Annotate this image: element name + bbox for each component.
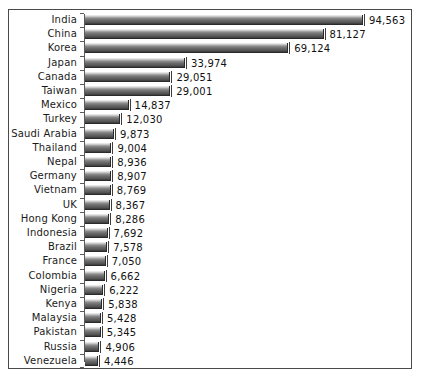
bar[interactable] (85, 43, 288, 53)
bar[interactable] (85, 58, 185, 68)
bar-row[interactable]: Kenya5,838 (9, 297, 411, 311)
bar[interactable] (85, 29, 324, 39)
bar-track: 81,127 (85, 29, 411, 39)
bar-end-cap (111, 199, 112, 211)
axis-tick (80, 169, 84, 170)
bar-row[interactable]: Mexico14,837 (9, 98, 411, 112)
category-label: Hong Kong (9, 212, 77, 226)
axis-tick (80, 269, 84, 270)
bar-end-cap (171, 85, 172, 97)
axis-tick (80, 283, 84, 284)
bar-row[interactable]: Indonesia7,692 (9, 226, 411, 240)
category-label: Indonesia (9, 226, 77, 240)
bar[interactable] (85, 342, 99, 352)
bar[interactable] (85, 185, 111, 195)
bar[interactable] (85, 171, 111, 181)
bar-end-cap (112, 142, 113, 154)
bar-row[interactable]: Nepal8,936 (9, 155, 411, 169)
bar-row[interactable]: Germany8,907 (9, 169, 411, 183)
bar-row[interactable]: Canada29,051 (9, 70, 411, 84)
category-label: France (9, 254, 77, 268)
bar[interactable] (85, 114, 120, 124)
category-label: Pakistan (9, 325, 77, 339)
bar-end-cap (102, 312, 103, 324)
bar-row[interactable]: China81,127 (9, 27, 411, 41)
bar[interactable] (85, 313, 101, 323)
bar-row[interactable]: UK8,367 (9, 198, 411, 212)
bar[interactable] (85, 129, 114, 139)
bar-row[interactable]: Malaysia5,428 (9, 311, 411, 325)
category-label: Brazil (9, 240, 77, 254)
bar-value-label: 8,907 (117, 170, 147, 183)
bar-row[interactable]: Vietnam8,769 (9, 183, 411, 197)
bar-value-label: 5,428 (107, 312, 137, 325)
bar-value-label: 8,286 (115, 213, 145, 226)
bar[interactable] (85, 285, 103, 295)
bar-row[interactable]: Taiwan29,001 (9, 84, 411, 98)
plot-area: India94,563China81,127Korea69,124Japan33… (9, 10, 411, 368)
bar-end-cap (112, 184, 113, 196)
axis-tick (80, 297, 84, 298)
bar[interactable] (85, 72, 170, 82)
axis-tick (80, 127, 84, 128)
bar-end-cap (115, 128, 116, 140)
bar-row[interactable]: Nigeria6,222 (9, 283, 411, 297)
bar-track: 5,838 (85, 299, 411, 309)
bar[interactable] (85, 143, 111, 153)
bar-track: 14,837 (85, 100, 411, 110)
category-label: Korea (9, 41, 77, 55)
category-label: Thailand (9, 141, 77, 155)
bar-value-label: 6,662 (111, 270, 141, 283)
bar[interactable] (85, 100, 129, 110)
bar-end-cap (109, 227, 110, 239)
bar[interactable] (85, 15, 363, 25)
bar-track: 12,030 (85, 114, 411, 124)
axis-tick (80, 141, 84, 142)
bar[interactable] (85, 256, 106, 266)
bar[interactable] (85, 86, 170, 96)
bar-track: 69,124 (85, 43, 411, 53)
bar[interactable] (85, 200, 110, 210)
bar-row[interactable]: Saudi Arabia9,873 (9, 127, 411, 141)
bar-row[interactable]: India94,563 (9, 13, 411, 27)
axis-tick (80, 367, 84, 368)
bar-row[interactable]: Brazil7,578 (9, 240, 411, 254)
bar-row[interactable]: Turkey12,030 (9, 112, 411, 126)
bar-value-label: 8,936 (117, 156, 147, 169)
bar[interactable] (85, 242, 107, 252)
axis-tick (80, 13, 84, 14)
axis-tick (80, 98, 84, 99)
bar[interactable] (85, 356, 98, 366)
bar-row[interactable]: Thailand9,004 (9, 141, 411, 155)
bar[interactable] (85, 271, 105, 281)
category-label: Saudi Arabia (9, 127, 77, 141)
bar-track: 7,050 (85, 256, 411, 266)
bar-row[interactable]: Hong Kong8,286 (9, 212, 411, 226)
category-label: Germany (9, 169, 77, 183)
bar-value-label: 7,050 (112, 255, 142, 268)
bar-end-cap (110, 213, 111, 225)
bar[interactable] (85, 327, 101, 337)
bar-row[interactable]: Colombia6,662 (9, 269, 411, 283)
bar-end-cap (364, 14, 365, 26)
bar-end-cap (108, 241, 109, 253)
bar-value-label: 29,001 (176, 85, 212, 98)
bar[interactable] (85, 299, 102, 309)
bar[interactable] (85, 157, 111, 167)
bar-value-label: 33,974 (191, 57, 227, 70)
bar-row[interactable]: Japan33,974 (9, 56, 411, 70)
category-label: Taiwan (9, 84, 77, 98)
bar-row[interactable]: Korea69,124 (9, 41, 411, 55)
bar-end-cap (106, 270, 107, 282)
chart-frame: India94,563China81,127Korea69,124Japan33… (8, 9, 412, 369)
bar-row[interactable]: Pakistan5,345 (9, 325, 411, 339)
bar-track: 8,769 (85, 185, 411, 195)
bar-end-cap (103, 298, 104, 310)
bar-value-label: 8,769 (117, 184, 147, 197)
bar-row[interactable]: Russia4,906 (9, 340, 411, 354)
category-label: Vietnam (9, 183, 77, 197)
bar[interactable] (85, 214, 109, 224)
bar-row[interactable]: France7,050 (9, 254, 411, 268)
bar[interactable] (85, 228, 108, 238)
bar-row[interactable]: Venezuela4,446 (9, 354, 411, 368)
